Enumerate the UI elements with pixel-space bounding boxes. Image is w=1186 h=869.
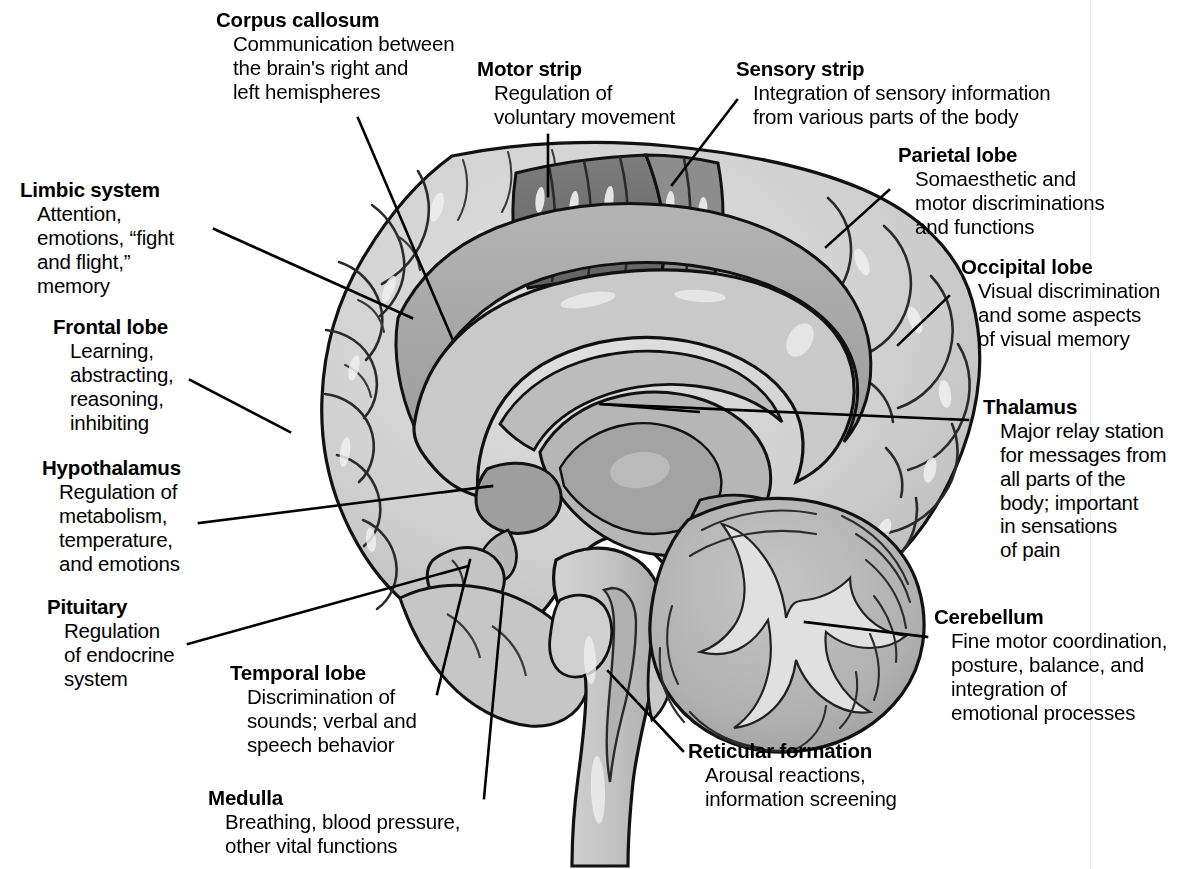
- label-description: Regulation of endocrine system: [47, 619, 174, 691]
- label-description: Visual discrimination and some aspects o…: [961, 279, 1160, 351]
- callout-frontal-lobe: Frontal lobe Learning, abstracting, reas…: [53, 315, 174, 434]
- label-description: Fine motor coordination, posture, balanc…: [934, 629, 1167, 725]
- label-term: Occipital lobe: [961, 255, 1160, 279]
- label-term: Motor strip: [477, 57, 675, 81]
- label-term: Temporal lobe: [230, 661, 417, 685]
- callout-temporal-lobe: Temporal lobe Discrimination of sounds; …: [230, 661, 417, 757]
- callout-limbic-system: Limbic system Attention, emotions, “figh…: [20, 178, 174, 297]
- cerebellum-region: [650, 498, 924, 752]
- label-description: Major relay station for messages from al…: [983, 419, 1166, 562]
- callout-hypothalamus: Hypothalamus Regulation of metabolism, t…: [42, 456, 181, 575]
- callout-cerebellum: Cerebellum Fine motor coordination, post…: [934, 605, 1167, 724]
- label-description: Attention, emotions, “fight and flight,”…: [20, 202, 174, 298]
- label-term: Medulla: [208, 786, 460, 810]
- callout-occipital-lobe: Occipital lobe Visual discrimination and…: [961, 255, 1160, 351]
- label-term: Reticular formation: [688, 739, 897, 763]
- label-term: Corpus callosum: [216, 8, 454, 32]
- label-description: Integration of sensory information from …: [736, 81, 1050, 129]
- callout-pituitary: Pituitary Regulation of endocrine system: [47, 595, 174, 691]
- label-term: Cerebellum: [934, 605, 1167, 629]
- callout-parietal-lobe: Parietal lobe Somaesthetic and motor dis…: [898, 143, 1104, 239]
- callout-thalamus: Thalamus Major relay station for message…: [983, 395, 1166, 562]
- label-description: Somaesthetic and motor discriminations a…: [898, 167, 1104, 239]
- label-term: Hypothalamus: [42, 456, 181, 480]
- callout-motor-strip: Motor strip Regulation of voluntary move…: [477, 57, 675, 129]
- label-term: Frontal lobe: [53, 315, 174, 339]
- label-description: Communication between the brain's right …: [216, 32, 454, 104]
- label-description: Arousal reactions, information screening: [688, 763, 897, 811]
- label-term: Thalamus: [983, 395, 1166, 419]
- callout-medulla: Medulla Breathing, blood pressure, other…: [208, 786, 460, 858]
- label-term: Parietal lobe: [898, 143, 1104, 167]
- callout-sensory-strip: Sensory strip Integration of sensory inf…: [736, 57, 1050, 129]
- label-description: Breathing, blood pressure, other vital f…: [208, 810, 460, 858]
- label-term: Pituitary: [47, 595, 174, 619]
- label-description: Regulation of metabolism, temperature, a…: [42, 480, 181, 576]
- label-term: Sensory strip: [736, 57, 1050, 81]
- callout-reticular-formation: Reticular formation Arousal reactions, i…: [688, 739, 897, 811]
- hypothalamus-shape: [476, 463, 561, 533]
- callout-corpus-callosum: Corpus callosum Communication between th…: [216, 8, 454, 104]
- label-description: Discrimination of sounds; verbal and spe…: [230, 685, 417, 757]
- brain-anatomy-figure: Corpus callosum Communication between th…: [0, 0, 1186, 869]
- label-description: Learning, abstracting, reasoning, inhibi…: [53, 339, 174, 435]
- label-term: Limbic system: [20, 178, 174, 202]
- label-description: Regulation of voluntary movement: [477, 81, 675, 129]
- leader-frontal-lobe: [190, 380, 290, 432]
